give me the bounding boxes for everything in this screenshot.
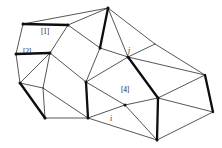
mesh-vertex-v6 xyxy=(127,56,130,59)
mesh-edge-v10-v13 xyxy=(43,88,45,118)
mesh-edge-v3-v9 xyxy=(16,54,20,83)
mesh-edge-v11-v15 xyxy=(86,82,125,105)
mesh-vertex-v4 xyxy=(49,52,52,55)
mesh-edge-v6-v11 xyxy=(86,57,128,82)
mesh-edge-v4-v10 xyxy=(43,53,50,88)
mesh-vertex-v12 xyxy=(157,97,160,100)
mesh-edge-v2-v4 xyxy=(50,25,68,53)
mesh-edge-v10-v14 xyxy=(43,88,88,118)
mesh-vertex-v3 xyxy=(15,53,18,56)
mesh-edge-v2-v0 xyxy=(68,8,108,25)
mesh-edge-v4-v9 xyxy=(20,53,50,83)
mesh-vertex-v0 xyxy=(107,7,110,10)
mesh-vertex-v1 xyxy=(22,23,25,26)
mesh-vertex-v9 xyxy=(19,82,22,85)
mesh-vertex-v15 xyxy=(124,104,127,107)
mesh-edge-v14-v15 xyxy=(88,105,125,118)
edge-label-2: [2] xyxy=(23,48,31,56)
mesh-edge-v4-v11 xyxy=(50,53,86,82)
mesh-edge-v6-v7 xyxy=(128,44,155,57)
mesh-vertex-v5 xyxy=(99,47,102,50)
mesh-canvas xyxy=(0,0,222,148)
mesh-vertex-v13 xyxy=(44,117,47,120)
mesh-edge-v1-v0 xyxy=(23,8,108,24)
mesh-edge-v1-v2 xyxy=(23,24,68,25)
mesh-vertex-v11 xyxy=(85,81,88,84)
mesh-edge-v0-v5 xyxy=(100,8,108,48)
mesh-edge-v3-v4 xyxy=(16,53,50,54)
mesh-edge-v12-v15 xyxy=(125,98,158,105)
node-label-j: j xyxy=(128,47,130,55)
mesh-edge-v11-v14 xyxy=(86,82,88,118)
mesh-vertex-v14 xyxy=(87,117,90,120)
edge-label-1: [1] xyxy=(41,28,49,36)
edge-label-4: [4] xyxy=(121,86,129,94)
mesh-edge-v16-v17 xyxy=(157,112,213,140)
mesh-edge-v1-v3 xyxy=(16,24,23,54)
mesh-vertex-v16 xyxy=(156,139,159,142)
mesh-edge-v2-v5 xyxy=(68,25,100,48)
mesh-edge-v9-v13 xyxy=(20,83,45,118)
mesh-vertex-v2 xyxy=(67,24,70,27)
mesh-edge-v5-v11 xyxy=(86,48,100,82)
mesh-edge-v12-v17 xyxy=(158,98,213,112)
mesh-edge-v7-v8 xyxy=(155,44,205,75)
vertex-marker-group xyxy=(15,7,160,142)
node-label-i: i xyxy=(110,115,112,123)
mesh-edge-v12-v16 xyxy=(157,98,158,140)
mesh-edge-v8-v17 xyxy=(205,75,213,112)
mesh-edge-v8-v12 xyxy=(158,75,205,98)
mesh-edge-v5-v6 xyxy=(100,48,128,57)
mesh-diagram-figure: [1][2][4]ji xyxy=(0,0,222,148)
